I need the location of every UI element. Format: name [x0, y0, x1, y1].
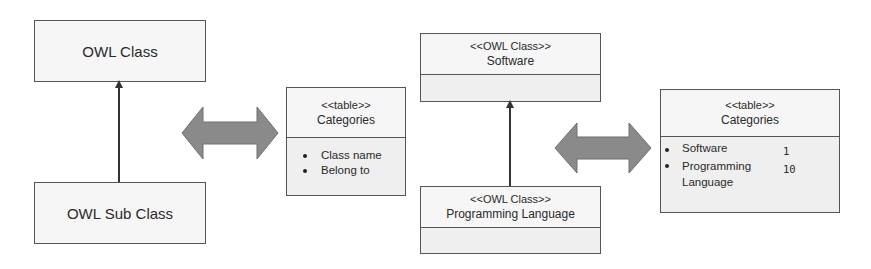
- owl-sub-class-label: OWL Sub Class: [67, 205, 173, 222]
- row-class-name: Software: [682, 142, 727, 154]
- table-row: Software 1: [661, 142, 839, 157]
- bullet-icon: [303, 169, 307, 173]
- list-item: Class name: [301, 148, 382, 163]
- row-class-name-cont: Language: [682, 174, 733, 190]
- right-table-stereotype: <<table>>: [725, 98, 775, 113]
- double-arrow-right-icon: [555, 123, 651, 173]
- software-class-box: <<OWL Class>> Software: [420, 33, 601, 102]
- left-table-name: Categories: [317, 113, 375, 128]
- row-belong-to: 1: [783, 145, 789, 157]
- software-class-body: [421, 75, 600, 101]
- right-table-name: Categories: [721, 113, 779, 128]
- bullet-icon: [303, 154, 307, 158]
- programming-language-class-box: <<OWL Class>> Programming Language: [420, 186, 601, 254]
- double-arrow-left-icon: [182, 107, 278, 159]
- list-item: Belong to: [301, 163, 382, 178]
- left-table-header: <<table>> Categories: [287, 88, 405, 138]
- owl-class-label: OWL Class: [82, 43, 157, 60]
- owl-class-box: OWL Class: [34, 20, 206, 82]
- table-row: Programming Language 10: [661, 158, 839, 190]
- programming-language-class-header: <<OWL Class>> Programming Language: [421, 187, 600, 228]
- right-table-body: Software 1 Programming Language 10: [661, 137, 839, 212]
- programming-language-stereotype: <<OWL Class>>: [470, 192, 551, 207]
- software-stereotype: <<OWL Class>>: [470, 39, 551, 54]
- left-table-box: <<table>> Categories Class name Belong t…: [286, 87, 406, 196]
- left-table-body: Class name Belong to: [287, 138, 405, 195]
- row-belong-to: 10: [783, 161, 796, 177]
- right-table-box: <<table>> Categories Software 1 Programm…: [660, 89, 840, 213]
- right-table-header: <<table>> Categories: [661, 90, 839, 137]
- left-table-stereotype: <<table>>: [321, 98, 371, 113]
- row-class-name: Programming: [682, 158, 751, 174]
- owl-sub-class-box: OWL Sub Class: [34, 182, 206, 244]
- bullet-icon: [665, 148, 669, 152]
- software-class-header: <<OWL Class>> Software: [421, 34, 600, 75]
- software-name: Software: [487, 54, 534, 69]
- programming-language-name: Programming Language: [446, 207, 575, 222]
- bullet-icon: [665, 164, 669, 168]
- inheritance-arrow-left: [114, 80, 124, 190]
- inheritance-arrow-right: [505, 100, 515, 190]
- programming-language-class-body: [421, 228, 600, 253]
